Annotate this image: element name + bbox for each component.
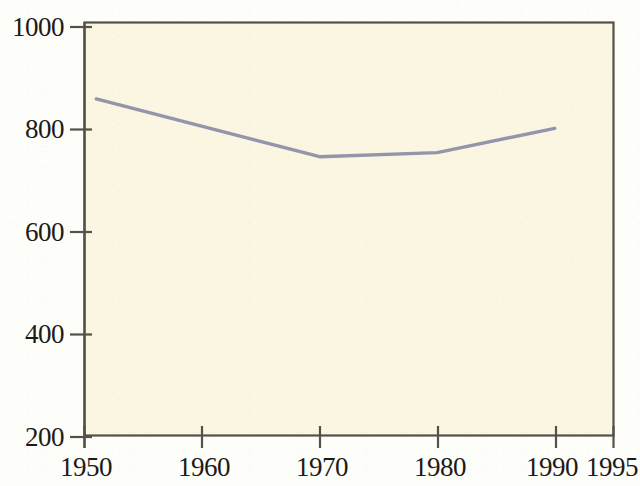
y-tick-label-1000: 1000	[2, 12, 64, 43]
chart-figure: 1000 800 600 400 200 1950 1960 1970 1980…	[0, 0, 640, 486]
y-tick-label-600: 600	[2, 217, 64, 248]
plot-area-background	[85, 23, 614, 436]
y-tick-label-200: 200	[2, 422, 64, 453]
x-tick-label-1950: 1950	[60, 452, 112, 483]
y-tick-label-800: 800	[2, 114, 64, 145]
x-tick-label-1970: 1970	[296, 452, 348, 483]
y-tick-label-400: 400	[2, 319, 64, 350]
x-tick-label-1960: 1960	[178, 452, 230, 483]
x-tick-label-1980: 1980	[414, 452, 466, 483]
x-tick-label-1995: 1995	[586, 452, 638, 483]
x-tick-label-1990: 1990	[526, 452, 578, 483]
chart-canvas	[0, 0, 640, 486]
